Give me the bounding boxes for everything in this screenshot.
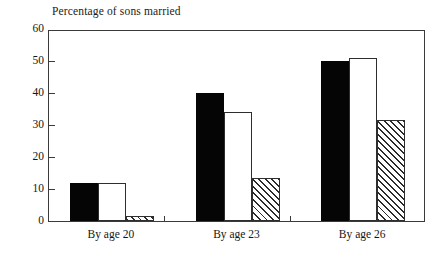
bar (98, 183, 126, 221)
plot-area: 0102030405060 (48, 30, 425, 222)
y-axis-tick-mark (49, 189, 55, 190)
y-axis-tick-label: 60 (33, 23, 45, 35)
bar (70, 183, 98, 221)
y-axis-tick-label: 20 (33, 151, 45, 163)
bar (126, 216, 154, 221)
x-axis-category-label: By age 23 (213, 228, 260, 240)
bar (196, 93, 224, 221)
y-axis-tick-mark (49, 61, 55, 62)
x-axis-tick-mark (290, 216, 291, 221)
y-axis-tick-mark (49, 93, 55, 94)
bar (321, 61, 349, 221)
bar-chart: Percentage of sons married 0102030405060… (0, 0, 448, 257)
y-axis-tick-label: 30 (33, 119, 45, 131)
x-axis-category-label: By age 20 (88, 228, 135, 240)
x-axis-category-label: By age 26 (339, 228, 386, 240)
y-axis-tick-mark (49, 125, 55, 126)
y-axis-tick-mark (49, 157, 55, 158)
y-axis-tick-label: 50 (33, 55, 45, 67)
bar (252, 178, 280, 221)
bar (224, 112, 252, 221)
bar (349, 58, 377, 221)
y-axis-tick-label: 40 (33, 87, 45, 99)
y-axis-tick-label: 10 (33, 183, 45, 195)
chart-title: Percentage of sons married (52, 5, 181, 17)
y-axis-tick-label: 0 (38, 215, 44, 227)
x-axis-tick-mark (164, 216, 165, 221)
bar (377, 120, 405, 221)
